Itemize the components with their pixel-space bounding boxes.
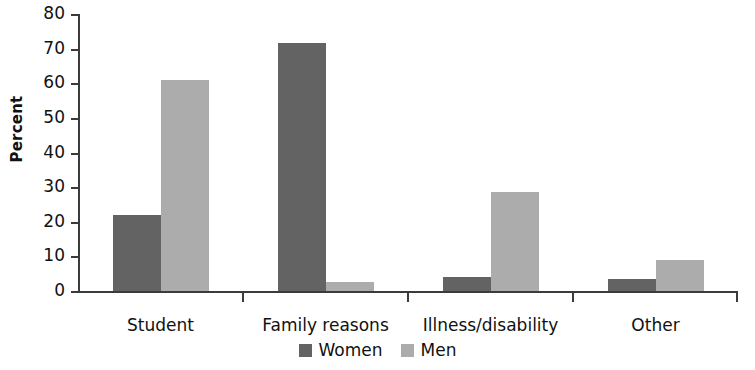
legend-label: Men (421, 340, 457, 360)
y-tick-0: 0 (71, 291, 78, 293)
y-tick-20: 20 (71, 222, 78, 224)
legend-swatch-icon (299, 344, 312, 357)
y-tick-label: 70 (43, 38, 65, 58)
y-tick-label: 50 (43, 107, 65, 127)
bar-men-family-reasons (326, 282, 374, 291)
y-tick-label: 80 (43, 3, 65, 23)
legend-swatch-icon (401, 344, 414, 357)
plot-area: 01020304050607080 StudentFamily reasonsI… (78, 14, 738, 291)
y-tick-50: 50 (71, 118, 78, 120)
y-tick-label: 40 (43, 142, 65, 162)
bar-women-illness-disability (443, 277, 491, 291)
bar-women-family-reasons (278, 43, 326, 291)
bar-men-other (656, 260, 704, 291)
y-tick-70: 70 (71, 49, 78, 51)
bar-women-other (608, 279, 656, 291)
bar-chart: Percent 01020304050607080 StudentFamily … (0, 0, 755, 370)
y-tick-label: 20 (43, 211, 65, 231)
y-tick-80: 80 (71, 14, 78, 16)
legend-item-women[interactable]: Women (299, 340, 383, 360)
y-tick-label: 10 (43, 245, 65, 265)
legend-item-men[interactable]: Men (401, 340, 457, 360)
y-axis-line (78, 14, 80, 291)
x-tick (242, 293, 244, 302)
category-label-illness-disability: Illness/disability (408, 314, 573, 336)
y-tick-60: 60 (71, 83, 78, 85)
bar-men-student (161, 80, 209, 291)
x-tick (572, 293, 574, 302)
y-tick-40: 40 (71, 153, 78, 155)
bar-men-illness-disability (491, 192, 539, 291)
chart-legend: WomenMen (0, 340, 755, 360)
x-tick (736, 293, 738, 302)
y-tick-label: 30 (43, 176, 65, 196)
category-label-other: Other (573, 314, 738, 336)
y-tick-10: 10 (71, 256, 78, 258)
bar-women-student (113, 215, 161, 291)
category-label-student: Student (78, 314, 243, 336)
x-tick (407, 293, 409, 302)
y-tick-30: 30 (71, 187, 78, 189)
legend-label: Women (319, 340, 383, 360)
y-tick-label: 0 (54, 280, 65, 300)
y-tick-label: 60 (43, 72, 65, 92)
y-axis-title: Percent (8, 69, 26, 189)
category-label-family-reasons: Family reasons (243, 314, 408, 336)
